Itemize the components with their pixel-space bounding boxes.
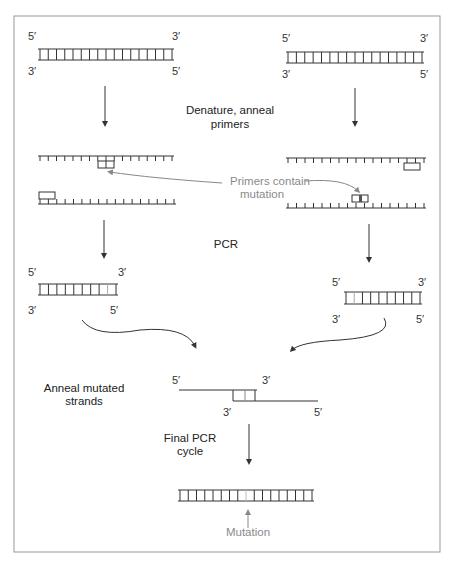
label-3prime: 3′ [223,406,231,418]
label-3prime: 3′ [332,313,340,325]
strands-left-annealed [38,156,176,204]
label-5prime: 5′ [172,65,180,77]
label-5prime: 5′ [110,304,118,316]
mutagenesis-diagram: 5′ 3′ 3′ 5′ 5′ 3′ 3′ 5′ Denature, anneal… [0,0,452,568]
annotation-primers: mutation [240,188,284,200]
label-3prime: 3′ [28,65,36,77]
label-5prime: 5′ [282,32,290,44]
step-label-anneal: strands [65,395,103,407]
duplex-top-right: 5′ 3′ 3′ 5′ [282,32,428,80]
duplex-top-left: 5′ 3′ 3′ 5′ [28,30,180,77]
step-label-pcr: PCR [214,238,238,250]
label-5prime: 5′ [416,313,424,325]
arrow-curve-icon [110,172,222,183]
label-5prime: 5′ [28,266,36,278]
step-label-denature: primers [211,118,250,130]
annealed-overlap: 5′ 3′ 3′ 5′ [172,374,322,418]
step-label-denature: Denature, anneal [186,104,274,116]
step-label-final: Final PCR [164,432,216,444]
pcr-product-left: 5′ 3′ 3′ 5′ [28,266,126,316]
label-3prime: 3′ [28,304,36,316]
annotation-primers: Primers contain [230,175,310,187]
label-3prime: 3′ [420,32,428,44]
label-3prime: 3′ [282,68,290,80]
annotation-mutation: Mutation [226,526,270,538]
label-3prime: 3′ [262,374,270,386]
step-label-final: cycle [177,445,203,457]
label-5prime: 5′ [172,374,180,386]
label-5prime: 5′ [28,30,36,42]
label-3prime: 3′ [118,266,126,278]
final-product [178,490,314,501]
arrow-curve-icon [82,320,195,346]
step-label-anneal: Anneal mutated [44,382,125,394]
pcr-product-right: 5′ 3′ 3′ 5′ [332,276,426,325]
label-5prime: 5′ [420,68,428,80]
label-5prime: 5′ [314,406,322,418]
arrow-curve-icon [305,180,358,191]
label-5prime: 5′ [332,276,340,288]
label-3prime: 3′ [172,30,180,42]
label-3prime: 3′ [418,276,426,288]
